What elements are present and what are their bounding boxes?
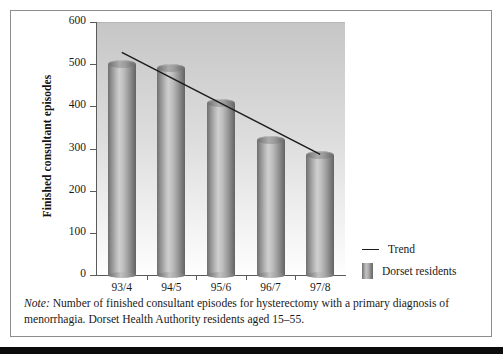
x-axis-tick [295, 276, 296, 280]
note-label: Note: [24, 297, 50, 310]
y-axis-tick-label: 0 [50, 267, 86, 279]
y-axis-tick-label: 500 [50, 56, 86, 68]
note-text: Number of finished consultant episodes f… [24, 297, 449, 326]
chart-legend: Trend Dorset residents [362, 238, 482, 282]
y-axis-tick [90, 64, 96, 65]
legend-item-dorset-residents: Dorset residents [362, 260, 482, 282]
x-axis-tick-label: 96/7 [247, 281, 295, 293]
legend-label-dorset-residents: Dorset residents [382, 265, 456, 277]
trend-line [97, 22, 345, 275]
y-axis-tick [90, 191, 96, 192]
x-axis-tick [246, 276, 247, 280]
y-axis-tick [90, 233, 96, 234]
y-axis-tick-label: 400 [50, 98, 86, 110]
legend-label-trend: Trend [388, 243, 415, 255]
y-axis-tick-label: 100 [50, 225, 86, 237]
y-axis-tick [90, 106, 96, 107]
figure-note: Note: Number of finished consultant epis… [24, 296, 480, 327]
y-axis-tick [90, 275, 96, 276]
trend-line-icon [362, 244, 379, 255]
bar-swatch-icon [362, 263, 373, 279]
x-axis-tick [147, 276, 148, 280]
x-axis-tick-label: 95/6 [197, 281, 245, 293]
y-axis-tick [90, 149, 96, 150]
x-axis-tick-label: 93/4 [98, 281, 146, 293]
figure-root: Finished consultant episodes 01002003004… [0, 0, 503, 354]
y-axis-tick-label: 200 [50, 183, 86, 195]
y-axis-tick [90, 22, 96, 23]
chart-container: Finished consultant episodes 01002003004… [10, 10, 492, 292]
y-axis-tick-label: 300 [50, 141, 86, 153]
x-axis-tick-label: 97/8 [296, 281, 344, 293]
page-bottom-edge [0, 347, 503, 354]
x-axis-tick [196, 276, 197, 280]
legend-item-trend: Trend [362, 238, 482, 260]
x-axis-tick-label: 94/5 [147, 281, 195, 293]
y-axis-tick-label: 600 [50, 14, 86, 26]
